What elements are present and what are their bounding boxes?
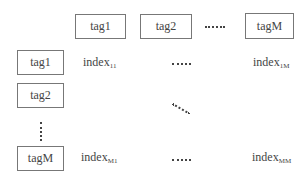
cell-base: index xyxy=(252,150,279,164)
cell-base: index xyxy=(83,55,110,69)
cell-sub: 1M xyxy=(280,62,290,70)
cell-index-1M: index1M xyxy=(253,55,289,70)
col-header-tag1: tag1 xyxy=(75,14,126,39)
cell-base: index xyxy=(81,150,108,164)
cell-sub: M1 xyxy=(108,157,118,165)
cell-sub: 11 xyxy=(110,62,117,70)
cell-index-MM: indexMM xyxy=(252,150,291,165)
col-ellipsis xyxy=(205,26,225,28)
col-header-tag2: tag2 xyxy=(140,14,192,39)
cell-index-M1: indexM1 xyxy=(81,150,117,165)
row-header-tag1: tag1 xyxy=(17,50,64,75)
cell-sub: MM xyxy=(279,157,291,165)
col-header-tagM: tagM xyxy=(245,13,294,39)
row-ellipsis xyxy=(40,122,42,141)
diagonal-ellipsis xyxy=(172,103,190,115)
rowM-ellipsis xyxy=(172,159,191,161)
row1-ellipsis xyxy=(172,63,191,65)
cell-index-11: index11 xyxy=(83,55,116,70)
row-header-tag2: tag2 xyxy=(17,83,64,108)
cell-base: index xyxy=(253,55,280,69)
row-header-tagM: tagM xyxy=(17,146,64,171)
